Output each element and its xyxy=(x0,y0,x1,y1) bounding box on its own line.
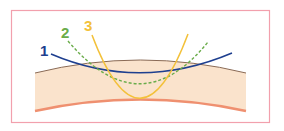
curve-1-label: 1 xyxy=(40,42,48,59)
curvature-diagram: 1 2 3 xyxy=(0,0,284,131)
curve-2-label: 2 xyxy=(61,24,69,41)
curve-3-label: 3 xyxy=(84,17,92,34)
tissue-band xyxy=(35,60,246,111)
